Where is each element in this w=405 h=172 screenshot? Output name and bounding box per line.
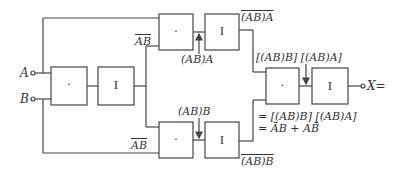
label-final-inputs: [(AB)B] [(AB)A]: [256, 52, 342, 64]
and-symbol-final: ·: [266, 77, 299, 93]
input-label-a: A: [20, 67, 29, 79]
inv-symbol-top: I: [205, 23, 239, 39]
and-symbol-bottom: ·: [159, 131, 193, 147]
and-symbol-top: ·: [159, 23, 193, 39]
inv-symbol-final: I: [312, 78, 348, 94]
inv-symbol-bottom: I: [205, 132, 239, 148]
inv-symbol-1: I: [98, 77, 134, 93]
label-bottom-and-output: (AB)B: [178, 106, 211, 118]
output-terminal-x: [361, 84, 365, 88]
label-result-line2: = ĀB + AB̄: [258, 123, 319, 135]
label-nand-ab-bottom: AB: [131, 140, 147, 152]
output-label-x: X=: [367, 80, 386, 92]
label-top-and-output: (AB)A: [181, 54, 214, 66]
label-bottom-inv-output: (AB)B: [241, 156, 274, 168]
label-nand-ab-top: AB: [135, 36, 151, 48]
input-label-b: B: [20, 93, 29, 105]
input-terminal-a: [31, 71, 35, 75]
input-terminal-b: [31, 97, 35, 101]
label-top-inv-output: (AB)A: [241, 12, 274, 24]
and-symbol-1: ·: [51, 76, 87, 92]
